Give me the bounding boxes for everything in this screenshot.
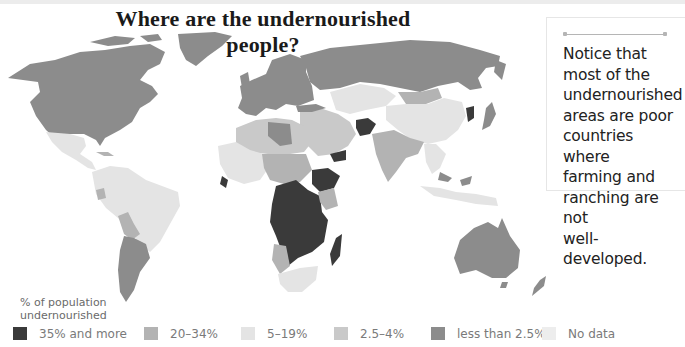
callout-line: most of the <box>563 65 677 86</box>
region-russia <box>300 40 500 92</box>
region-ethiopia <box>312 168 340 192</box>
region-madagascar <box>330 234 342 266</box>
callout-line: Notice that <box>563 44 677 65</box>
region-southern-cone <box>118 236 150 302</box>
callout-box: Notice that most of the undernourished a… <box>546 17 685 191</box>
region-afghanistan <box>356 118 376 136</box>
region-indonesia <box>420 186 498 206</box>
region-caribbean <box>96 152 114 156</box>
callout-line: ranching are not <box>563 188 677 229</box>
region-japan <box>482 102 496 130</box>
region-arctic-islands <box>90 34 162 46</box>
legend-label: 5–19% <box>267 327 307 342</box>
region-north-korea <box>466 106 474 122</box>
legend-label: No data <box>568 327 615 342</box>
region-middle-east <box>300 108 356 156</box>
callout-line: farming and <box>563 167 677 188</box>
legend-swatch <box>334 327 348 340</box>
callout-line: areas are poor <box>563 106 677 127</box>
callout-text: Notice that most of the undernourished a… <box>563 44 677 270</box>
top-strip <box>0 0 685 4</box>
callout-line: well-developed. <box>563 229 677 270</box>
callout-line: countries where <box>563 126 677 167</box>
legend-label: 2.5–4% <box>360 327 404 342</box>
legend-heading-line: undernourished <box>20 309 140 322</box>
legend-label: less than 2.5% <box>457 327 546 342</box>
region-kamchatka <box>494 60 506 80</box>
legend-label: 35% and more <box>39 327 127 342</box>
legend-heading: % of population undernourished <box>20 296 140 322</box>
region-sahel <box>262 154 312 184</box>
region-australia <box>454 218 520 278</box>
legend-swatch <box>542 327 556 340</box>
region-new-zealand <box>532 276 546 296</box>
region-tasmania <box>500 282 508 288</box>
region-sierra-leone <box>220 176 228 188</box>
region-north-america <box>8 44 165 146</box>
region-southeast-asia <box>424 144 446 174</box>
legend-swatch <box>144 327 158 340</box>
callout-line: undernourished <box>563 85 677 106</box>
legend-swatch <box>431 327 445 340</box>
region-mexico-central-america <box>46 132 96 170</box>
callout-divider <box>563 32 667 38</box>
legend-label: 20–34% <box>170 327 218 342</box>
region-malaysia <box>438 172 472 186</box>
legend-swatch <box>241 327 255 340</box>
region-greenland <box>178 32 232 66</box>
legend-swatch <box>13 327 27 340</box>
legend-heading-line: % of population <box>20 296 140 309</box>
world-map <box>0 30 560 305</box>
